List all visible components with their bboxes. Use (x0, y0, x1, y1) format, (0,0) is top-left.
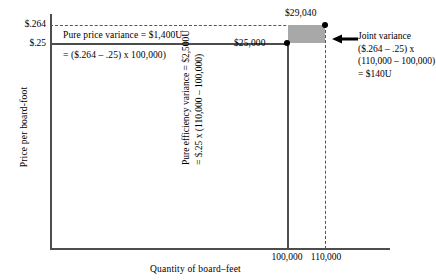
pure-efficiency-variance-annotation: Pure efficiency variance = $2,500U = $.2… (180, 0, 206, 165)
quantity-110000-reference-line (325, 25, 326, 249)
joint-variance-formula-line2: (110,000 – 100,000) (358, 55, 435, 68)
point-label-29040: $29,040 (285, 8, 317, 18)
joint-variance-arrow-icon (332, 34, 358, 44)
pure-efficiency-variance-formula: = $.25 x (110,000 – 100,000) (193, 0, 206, 165)
joint-variance-callout: Joint variance ($.264 – .25) x (110,000 … (358, 30, 435, 80)
data-point-29040 (322, 22, 328, 28)
joint-variance-result: = $140U (358, 68, 435, 81)
pure-efficiency-variance-label: Pure efficiency variance = $2,500U (180, 0, 193, 165)
joint-variance-label: Joint variance (358, 30, 435, 43)
y-axis-line (50, 14, 52, 250)
data-point-25000 (284, 40, 290, 46)
x-axis-line (50, 248, 390, 250)
y-tick-label-25: $.25 (4, 38, 46, 48)
y-axis-title: Price per board-foot (19, 47, 29, 207)
point-label-25000: $25,000 (234, 38, 266, 48)
variance-analysis-chart: Price per board-foot Quantity of board–f… (0, 0, 436, 280)
x-axis-title: Quantity of board–feet (150, 264, 241, 274)
y-tick-label-264: $.264 (4, 19, 46, 29)
pure-price-variance-formula: = ($.264 – .25) x 100,000) (63, 50, 166, 60)
quantity-100000-reference-line (287, 43, 289, 249)
joint-variance-formula-line1: ($.264 – .25) x (358, 43, 435, 56)
pure-price-variance-label: Pure price variance = $1,400U (63, 30, 182, 40)
joint-variance-region (288, 25, 325, 43)
x-tick-label-110000: 110,000 (296, 252, 356, 262)
